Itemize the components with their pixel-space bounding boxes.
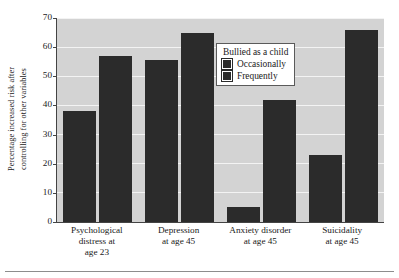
bar xyxy=(227,207,260,222)
y-axis-tick xyxy=(53,47,57,48)
bar xyxy=(99,56,132,222)
x-axis-category-label-line: distress at xyxy=(56,236,138,247)
legend-item-occasionally: Occasionally xyxy=(222,58,288,70)
bar xyxy=(345,30,378,222)
y-axis-tick xyxy=(53,135,57,136)
x-axis-category-label-line: at age 45 xyxy=(138,236,220,247)
legend-label-frequently: Frequently xyxy=(237,70,278,82)
bar xyxy=(181,33,214,222)
bar-chart-figure: Percentage increased risk after controll… xyxy=(0,0,399,278)
x-axis-line xyxy=(55,222,384,223)
y-axis-tick xyxy=(53,18,57,19)
y-axis-tick-label: 30 xyxy=(43,130,52,139)
y-axis-tick-label: 50 xyxy=(43,72,52,81)
y-axis-tick-label: 60 xyxy=(43,43,52,52)
legend-title: Bullied as a child xyxy=(222,46,288,58)
x-axis-category-label-line: Suicidality xyxy=(301,225,383,236)
bar xyxy=(263,100,296,222)
legend: Bullied as a child Occasionally Frequent… xyxy=(216,43,295,86)
x-axis-category-label: Psychologicaldistress atage 23 xyxy=(56,225,138,259)
bar xyxy=(63,111,96,222)
x-axis-category-label-line: age 23 xyxy=(56,247,138,258)
y-axis-title-line-2: controlling for other variables xyxy=(17,67,29,171)
y-axis-tick-labels: 010203040506070 xyxy=(30,18,52,222)
y-axis-tick-label: 70 xyxy=(43,13,52,22)
x-axis-category-label: Suicidalityat age 45 xyxy=(301,225,383,247)
legend-swatch-frequently xyxy=(222,71,232,81)
y-axis-tick-label: 0 xyxy=(47,217,52,226)
y-axis-title-line-1: Percentage increased risk after xyxy=(6,67,18,171)
x-axis-category-label-line: at age 45 xyxy=(220,236,302,247)
x-axis-category-label-line: Psychological xyxy=(56,225,138,236)
legend-label-occasionally: Occasionally xyxy=(237,58,286,70)
bar xyxy=(309,155,342,222)
y-axis-tick xyxy=(53,105,57,106)
x-axis-category-label-line: Depression xyxy=(138,225,220,236)
x-axis-category-label-line: Anxiety disorder xyxy=(220,225,302,236)
y-axis-tick-label: 10 xyxy=(43,188,52,197)
y-axis-tick xyxy=(53,164,57,165)
y-axis-tick-label: 40 xyxy=(43,101,52,110)
legend-item-frequently: Frequently xyxy=(222,70,288,82)
y-axis-tick-label: 20 xyxy=(43,159,52,168)
y-axis-title: Percentage increased risk after controll… xyxy=(0,0,34,238)
y-axis-tick xyxy=(53,193,57,194)
x-axis-category-label: Anxiety disorderat age 45 xyxy=(220,225,302,247)
x-axis-category-label: Depressionat age 45 xyxy=(138,225,220,247)
bar xyxy=(145,60,178,222)
gridline xyxy=(57,18,384,19)
x-axis-category-label-line: at age 45 xyxy=(301,236,383,247)
legend-swatch-occasionally xyxy=(222,59,232,69)
x-axis-category-labels: Psychologicaldistress atage 23Depression… xyxy=(56,225,383,267)
y-axis-tick xyxy=(53,76,57,77)
bottom-divider xyxy=(5,271,394,272)
